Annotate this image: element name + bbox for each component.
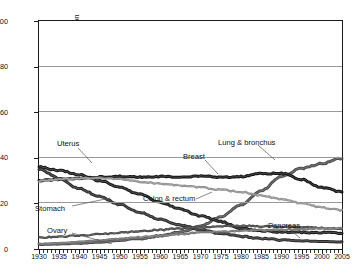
leader-line — [205, 160, 218, 174]
leader-line — [196, 192, 212, 199]
leader-line — [72, 198, 110, 206]
leader-line — [258, 145, 275, 160]
figure-panel-b: B Rate per 100,000 female population 020… — [0, 0, 353, 280]
leader-line — [288, 228, 300, 238]
leader-line — [72, 233, 112, 244]
label-leader-lines — [0, 0, 353, 280]
leader-line — [78, 148, 92, 163]
